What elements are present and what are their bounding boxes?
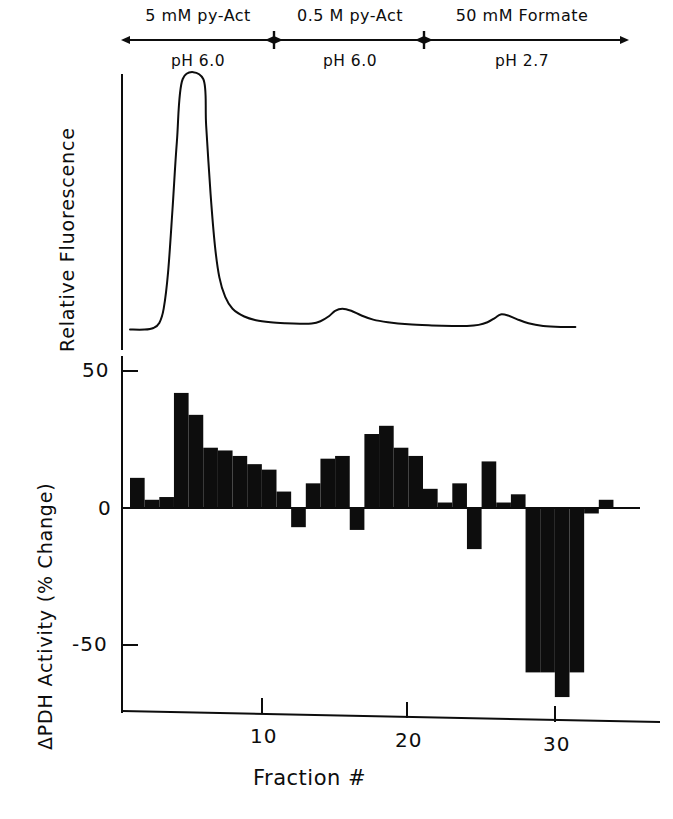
activity-bars: [130, 393, 613, 697]
figure-root: 5 mM py-Act pH 6.0 0.5 M py-Act pH 6.0 5…: [0, 0, 673, 819]
activity-bar: [233, 456, 248, 508]
activity-bar: [262, 470, 277, 508]
activity-bar: [203, 448, 218, 508]
activity-bar: [189, 415, 204, 508]
activity-bar: [555, 508, 570, 697]
activity-bar: [394, 448, 409, 508]
activity-x-axis-line: [122, 711, 660, 722]
activity-bar: [174, 393, 189, 508]
activity-bar: [511, 494, 526, 508]
activity-bar: [306, 483, 321, 508]
activity-bar: [408, 456, 423, 508]
activity-bar: [320, 459, 335, 508]
activity-bar-plot: [0, 350, 673, 770]
activity-bar: [584, 508, 599, 513]
activity-bar: [438, 503, 453, 508]
activity-bar: [540, 508, 555, 672]
activity-bar: [218, 450, 233, 508]
activity-panel: ΔPDH Activity (% Change) 50 0 -50 10 20 …: [0, 350, 673, 770]
activity-bar: [350, 508, 365, 530]
activity-bar: [423, 489, 438, 508]
activity-bar: [467, 508, 482, 549]
fluorescence-panel: Relative Fluorescence: [0, 60, 673, 360]
activity-bar: [159, 497, 174, 508]
activity-bar: [291, 508, 306, 527]
activity-bar: [379, 426, 394, 508]
activity-bar: [570, 508, 585, 672]
fluorescence-trace-plot: [0, 60, 673, 360]
activity-bar: [145, 500, 160, 508]
activity-bar: [526, 508, 541, 672]
activity-bar: [599, 500, 614, 508]
activity-bar: [364, 434, 379, 508]
fluorescence-curve: [130, 72, 575, 330]
activity-bar: [496, 503, 511, 508]
activity-bar: [482, 461, 497, 508]
activity-bar: [335, 456, 350, 508]
activity-bar: [130, 478, 145, 508]
activity-bar: [277, 492, 292, 508]
activity-bar: [452, 483, 467, 508]
activity-bar: [247, 464, 262, 508]
